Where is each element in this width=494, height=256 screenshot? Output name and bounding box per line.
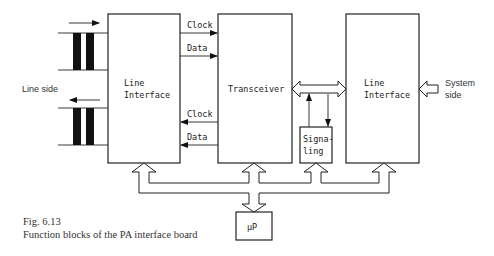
transformer-bottom bbox=[58, 100, 108, 145]
line-interface-left-block bbox=[108, 14, 180, 163]
line-interface-left-label-2: Interface bbox=[124, 90, 170, 100]
signaling-label-2: ling bbox=[303, 146, 323, 156]
block-diagram: Line side Line Interface Transceiver Clo… bbox=[0, 0, 494, 256]
data-label-top: Data bbox=[187, 43, 207, 53]
clock-label-bottom: Clock bbox=[187, 109, 213, 119]
line-interface-right-label-2: Interface bbox=[364, 90, 410, 100]
system-side-arrow-icon bbox=[419, 81, 438, 97]
system-side-label-1: System bbox=[445, 78, 475, 88]
transceiver-label: Transceiver bbox=[228, 84, 284, 94]
double-arrow-icon bbox=[292, 81, 346, 97]
line-side-label: Line side bbox=[22, 84, 58, 94]
figure-number: Fig. 6.13 bbox=[23, 216, 61, 227]
signaling-label-1: Signa- bbox=[303, 134, 334, 144]
figure-caption: Function blocks of the PA interface boar… bbox=[23, 229, 198, 240]
microprocessor-label: µP bbox=[247, 222, 257, 232]
clock-label-top: Clock bbox=[187, 20, 213, 30]
system-side-label-2: side bbox=[445, 90, 462, 100]
line-interface-right-label-1: Line bbox=[364, 78, 384, 88]
line-interface-left-label-1: Line bbox=[124, 78, 144, 88]
signaling-block bbox=[300, 127, 332, 163]
transformer-top bbox=[58, 23, 108, 70]
bus-icon bbox=[132, 163, 396, 212]
line-interface-right-block bbox=[346, 14, 419, 163]
data-label-bottom: Data bbox=[187, 132, 207, 142]
